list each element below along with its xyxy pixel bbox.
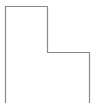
l-shape-outline (0, 0, 91, 103)
outline-path (6, 7, 90, 104)
